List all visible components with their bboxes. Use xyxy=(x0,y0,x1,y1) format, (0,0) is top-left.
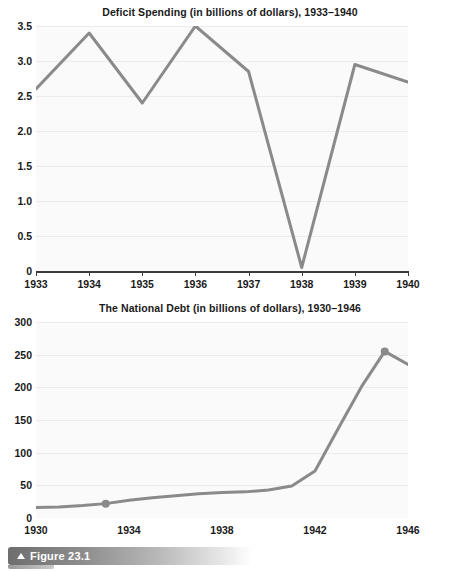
y-axis-tick-label: 250 xyxy=(2,349,32,361)
x-axis-tick-label: 1933 xyxy=(24,278,47,290)
triangle-up-icon xyxy=(17,553,25,559)
y-axis-tick-label: 0 xyxy=(2,512,32,524)
data-point-marker xyxy=(381,347,389,355)
chart-title-deficit-spending: Deficit Spending (in billions of dollars… xyxy=(0,6,460,18)
figure-label: Figure 23.1 xyxy=(30,550,90,562)
plot-area-deficit-spending xyxy=(36,26,408,271)
data-line xyxy=(36,26,408,268)
y-axis-tick-label: 0 xyxy=(2,265,32,277)
x-axis-tick-label: 1934 xyxy=(117,524,140,536)
x-axis-tick-label: 1930 xyxy=(24,524,47,536)
x-axis-tick-label: 1939 xyxy=(343,278,366,290)
y-axis-tick-label: 150 xyxy=(2,414,32,426)
x-axis-tick xyxy=(355,271,356,276)
figure-container: Deficit Spending (in billions of dollars… xyxy=(0,0,460,571)
y-axis-tick-label: 3.5 xyxy=(2,20,32,32)
chart-deficit-spending: Deficit Spending (in billions of dollars… xyxy=(0,0,460,298)
y-axis-tick-label: 2.0 xyxy=(2,125,32,137)
line-series-deficit-spending xyxy=(36,26,408,271)
data-point-marker xyxy=(102,500,110,508)
plot-area-national-debt xyxy=(36,322,408,518)
x-axis-tick xyxy=(302,271,303,276)
x-axis-tick xyxy=(89,271,90,276)
y-axis-tick-label: 1.0 xyxy=(2,195,32,207)
x-axis-deficit-spending xyxy=(36,271,409,273)
data-point-markers-national-debt xyxy=(36,322,408,518)
y-axis-tick-label: 0.5 xyxy=(2,230,32,242)
x-axis-tick xyxy=(142,271,143,276)
chart-title-national-debt: The National Debt (in billions of dollar… xyxy=(0,302,460,314)
x-axis-tick-label: 1934 xyxy=(77,278,100,290)
y-axis-tick-label: 100 xyxy=(2,447,32,459)
x-axis-tick-label: 1935 xyxy=(131,278,154,290)
x-axis-tick-label: 1946 xyxy=(396,524,419,536)
x-axis-tick-label: 1940 xyxy=(396,278,419,290)
chart-national-debt: The National Debt (in billions of dollar… xyxy=(0,300,460,540)
x-axis-tick-label: 1938 xyxy=(210,524,233,536)
figure-caption-bar: Figure 23.1 xyxy=(8,547,252,565)
y-axis-tick-label: 300 xyxy=(2,316,32,328)
figure-caption-underline xyxy=(8,565,54,569)
y-axis-tick-label: 3.0 xyxy=(2,55,32,67)
x-axis-tick-label: 1936 xyxy=(184,278,207,290)
x-axis-tick xyxy=(36,271,37,276)
x-axis-tick-label: 1942 xyxy=(303,524,326,536)
y-axis-tick-label: 1.5 xyxy=(2,160,32,172)
y-axis-tick-label: 50 xyxy=(2,479,32,491)
y-axis-tick-label: 200 xyxy=(2,381,32,393)
y-axis-tick-label: 2.5 xyxy=(2,90,32,102)
x-axis-tick-label: 1937 xyxy=(237,278,260,290)
x-axis-tick-label: 1938 xyxy=(290,278,313,290)
x-axis-tick xyxy=(249,271,250,276)
x-axis-tick xyxy=(408,271,409,276)
x-axis-tick xyxy=(195,271,196,276)
